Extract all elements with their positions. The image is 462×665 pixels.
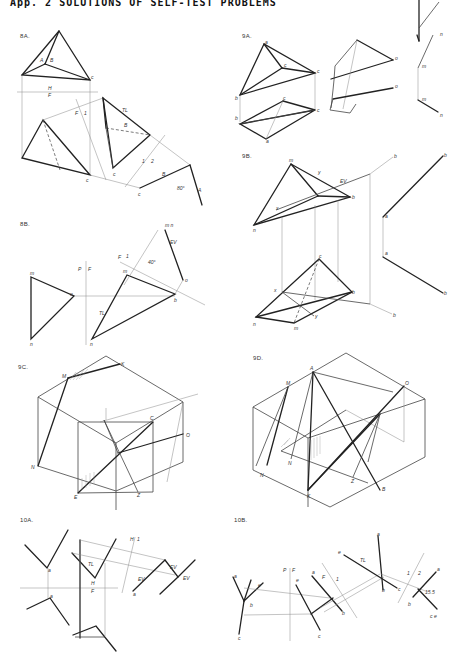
svg-text:c: c (317, 68, 320, 74)
svg-text:x: x (275, 205, 279, 211)
svg-text:15.5: 15.5 (425, 589, 435, 595)
svg-text:a: a (385, 213, 388, 219)
drawings-canvas: AB c HF F1 TLB cc 12 B 80° A c ac cb (0, 0, 462, 665)
figure-10a-drawing: aa TL HF H1 EV EV EV a (20, 530, 195, 651)
svg-text:o: o (185, 277, 188, 283)
svg-text:b: b (394, 153, 397, 159)
svg-text:o: o (395, 55, 398, 61)
svg-text:TL: TL (88, 561, 94, 567)
svg-text:1: 1 (407, 570, 410, 576)
svg-text:1: 1 (336, 576, 339, 582)
svg-text:EV: EV (183, 575, 190, 581)
svg-text:n: n (90, 341, 93, 347)
svg-text:c: c (283, 95, 286, 101)
svg-text:b: b (393, 312, 396, 318)
svg-text:b: b (235, 95, 238, 101)
svg-text:A: A (197, 187, 202, 193)
svg-text:B: B (124, 122, 128, 128)
svg-text:40°: 40° (148, 259, 156, 265)
svg-text:c e: c e (430, 613, 437, 619)
svg-text:n: n (440, 112, 443, 118)
svg-text:c: c (319, 253, 322, 259)
svg-text:O: O (405, 380, 409, 386)
svg-text:a: a (133, 591, 136, 597)
svg-text:a: a (48, 567, 51, 573)
svg-text:c: c (238, 635, 241, 641)
svg-text:n: n (253, 227, 256, 233)
svg-text:EV: EV (340, 178, 347, 184)
svg-text:H: H (48, 85, 52, 91)
svg-text:b: b (444, 152, 447, 158)
svg-text:1: 1 (126, 253, 129, 259)
svg-text:m: m (123, 268, 127, 274)
svg-text:e: e (338, 549, 341, 555)
svg-text:P: P (78, 266, 82, 272)
svg-text:F: F (48, 92, 52, 98)
svg-text:B: B (50, 57, 54, 63)
svg-text:F: F (118, 254, 122, 260)
svg-text:m: m (422, 63, 426, 69)
svg-text:2: 2 (150, 158, 154, 164)
svg-text:H: H (130, 536, 134, 542)
svg-text:m: m (422, 96, 426, 102)
svg-text:n: n (30, 341, 33, 347)
svg-text:b: b (444, 290, 447, 296)
svg-text:m: m (30, 270, 34, 276)
svg-text:EV: EV (170, 564, 177, 570)
svg-text:F: F (292, 567, 296, 573)
svg-text:2: 2 (417, 570, 421, 576)
svg-text:m: m (289, 157, 293, 163)
svg-text:e: e (258, 582, 261, 588)
svg-text:N: N (31, 464, 35, 470)
svg-text:Z: Z (136, 492, 141, 498)
svg-text:80°: 80° (177, 185, 185, 191)
svg-text:b: b (342, 610, 345, 616)
svg-text:F: F (91, 588, 95, 594)
svg-text:c: c (86, 177, 89, 183)
svg-text:o: o (395, 83, 398, 89)
svg-text:TL: TL (99, 310, 105, 316)
svg-text:n: n (253, 321, 256, 327)
svg-text:b: b (352, 194, 355, 200)
svg-text:c: c (318, 633, 321, 639)
svg-text:F: F (88, 266, 92, 272)
svg-text:c: c (91, 74, 94, 80)
svg-text:m: m (294, 325, 298, 331)
svg-text:y: y (317, 169, 321, 175)
svg-text:N: N (260, 472, 264, 478)
svg-text:c: c (138, 191, 141, 197)
svg-text:K: K (307, 493, 311, 499)
svg-text:F: F (322, 574, 326, 580)
svg-text:y: y (314, 313, 318, 319)
svg-text:1: 1 (84, 110, 87, 116)
svg-text:B: B (382, 486, 386, 492)
svg-text:n: n (440, 31, 443, 37)
svg-text:a: a (377, 531, 380, 537)
svg-text:Z: Z (350, 478, 355, 484)
svg-text:o: o (70, 291, 73, 297)
svg-text:b: b (250, 602, 253, 608)
svg-text:a: a (385, 250, 388, 256)
svg-text:x: x (273, 287, 277, 293)
svg-text:P: P (283, 567, 287, 573)
svg-text:N: N (288, 460, 292, 466)
svg-text:a: a (437, 566, 440, 572)
svg-text:a: a (266, 138, 269, 144)
svg-text:c: c (113, 171, 116, 177)
svg-text:1: 1 (137, 536, 140, 542)
svg-text:TL: TL (122, 107, 128, 113)
svg-text:EV: EV (138, 576, 145, 582)
svg-text:a: a (312, 569, 315, 575)
svg-text:a: a (50, 593, 53, 599)
svg-text:E: E (74, 494, 78, 500)
svg-text:c: c (284, 62, 287, 68)
figure-9a-drawing: ac cb bc ca oo mm nn (235, 0, 443, 144)
svg-text:b: b (382, 587, 385, 593)
svg-text:b: b (235, 115, 238, 121)
svg-text:c: c (398, 586, 401, 592)
svg-text:EV: EV (170, 239, 177, 245)
svg-text:A: A (309, 365, 314, 371)
svg-text:a: a (234, 573, 237, 579)
svg-text:b: b (352, 289, 355, 295)
figure-9d-drawing: AM ON NZ BK (253, 353, 425, 507)
